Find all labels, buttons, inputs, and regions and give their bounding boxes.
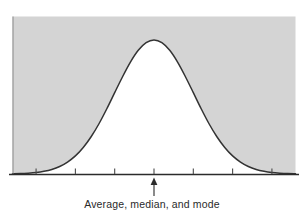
up-arrow-icon bbox=[151, 178, 158, 197]
chart-caption: Average, median, and mode bbox=[0, 198, 304, 211]
distribution-chart bbox=[0, 0, 304, 218]
bell-curve-figure: Average, median, and mode bbox=[0, 0, 304, 218]
